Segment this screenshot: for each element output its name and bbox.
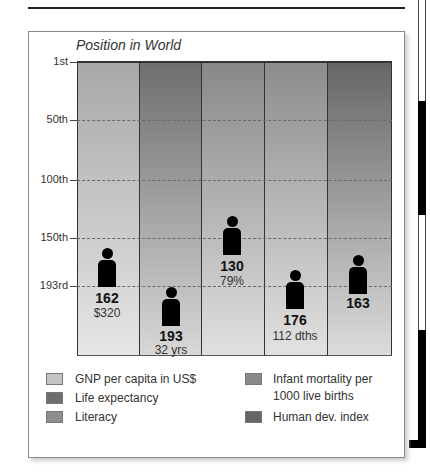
y-tick xyxy=(70,286,77,287)
rank-value-life-expectancy: 193 xyxy=(141,328,201,344)
person-icon xyxy=(348,255,368,295)
legend-label-human-dev-index: Human dev. index xyxy=(273,410,369,425)
y-tick xyxy=(70,120,77,121)
gridline-50th xyxy=(77,120,392,121)
person-icon xyxy=(161,287,181,327)
chart-title: Position in World xyxy=(76,37,181,53)
clipped-heading xyxy=(28,0,388,4)
top-rule xyxy=(28,7,405,9)
legend-swatch-infant-mortality xyxy=(245,373,262,385)
legend-swatch-gnp xyxy=(46,373,63,385)
y-tick-label: 50th xyxy=(32,113,68,125)
y-tick-label: 193rd xyxy=(32,279,68,291)
detail-infant-mortality: 112 dths xyxy=(260,329,330,343)
column-human-dev-index xyxy=(328,62,392,356)
detail-gnp: $320 xyxy=(72,306,142,320)
rank-value-gnp: 162 xyxy=(77,290,137,306)
rank-value-infant-mortality: 176 xyxy=(265,312,325,328)
legend-swatch-life-expectancy xyxy=(46,392,63,404)
y-tick xyxy=(70,238,77,239)
person-icon xyxy=(285,270,305,310)
detail-life-expectancy: 32 yrs xyxy=(136,343,206,357)
legend-swatch-literacy xyxy=(46,411,63,423)
plot-top-edge xyxy=(77,61,392,63)
legend-label-literacy: Literacy xyxy=(75,410,117,425)
legend-label-life-expectancy: Life expectancy xyxy=(75,391,158,406)
y-tick-label: 1st xyxy=(32,55,68,67)
y-tick-label: 100th xyxy=(32,173,68,185)
legend-label-gnp: GNP per capita in US$ xyxy=(75,372,196,387)
y-tick-label: 150th xyxy=(32,231,68,243)
side-bar-segment xyxy=(418,330,426,448)
side-bar-foot xyxy=(409,440,426,448)
plot-bottom-edge xyxy=(77,355,392,356)
person-icon xyxy=(222,216,242,256)
person-icon xyxy=(97,248,117,288)
side-bar-segment xyxy=(418,101,426,215)
legend-swatch-human-dev-index xyxy=(245,411,262,423)
rank-value-literacy: 130 xyxy=(202,258,262,274)
column-literacy xyxy=(202,62,265,356)
rank-value-human-dev-index: 163 xyxy=(328,295,388,311)
legend-label-infant-mortality: Infant mortality per xyxy=(273,372,372,387)
detail-literacy: 79% xyxy=(197,274,267,288)
legend-label-infant-mortality-line2: 1000 live births xyxy=(273,389,354,404)
gridline-100th xyxy=(77,180,392,181)
y-tick xyxy=(70,180,77,181)
y-tick xyxy=(70,62,77,63)
